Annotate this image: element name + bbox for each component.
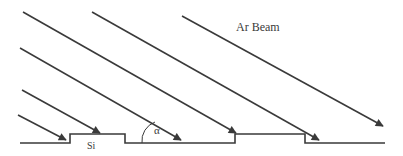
incidence-angle-label: α <box>154 124 160 136</box>
beam-arrow-1 <box>18 115 66 140</box>
beam-arrow-4 <box>23 12 236 133</box>
ar-beam-arrows <box>18 12 383 140</box>
si-surface-profile <box>20 134 385 143</box>
beam-arrow-2 <box>22 90 100 133</box>
si-label: Si <box>87 140 95 151</box>
beam-arrow-5 <box>92 12 319 140</box>
ar-beam-label: Ar Beam <box>236 20 280 35</box>
beam-arrow-6 <box>182 16 383 126</box>
ion-beam-diagram <box>0 0 403 156</box>
